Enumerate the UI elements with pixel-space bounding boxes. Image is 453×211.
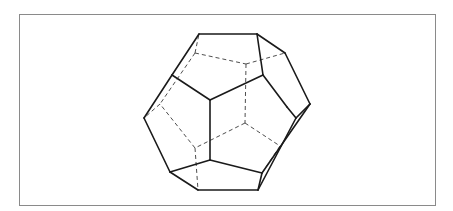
hidden-edge-US xyxy=(160,104,195,148)
edge-BL xyxy=(257,34,263,75)
edge-CD xyxy=(285,53,310,104)
edge-WE xyxy=(287,107,296,118)
edge-IJ xyxy=(144,75,172,118)
hidden-edge-QC xyxy=(246,53,285,64)
hidden-edge-TV xyxy=(245,123,280,146)
hidden-edge-TU xyxy=(195,123,245,148)
edge-LW xyxy=(263,75,287,107)
hidden-edge-PQ xyxy=(195,53,246,64)
edge-JA xyxy=(172,34,199,75)
hidden-edge-UG xyxy=(195,148,198,190)
edge-LK xyxy=(210,75,263,100)
edge-EF xyxy=(258,118,296,190)
edge-KJ xyxy=(172,75,210,100)
edge-BC xyxy=(257,34,285,53)
visible-edges xyxy=(144,34,310,190)
edge-GH xyxy=(170,172,198,190)
hidden-edge-QT xyxy=(245,64,246,123)
edge-MN xyxy=(210,160,262,173)
edge-HI xyxy=(144,118,170,172)
edge-MH xyxy=(170,160,210,172)
dodecahedron-diagram xyxy=(0,0,453,211)
hidden-edges xyxy=(144,34,285,190)
